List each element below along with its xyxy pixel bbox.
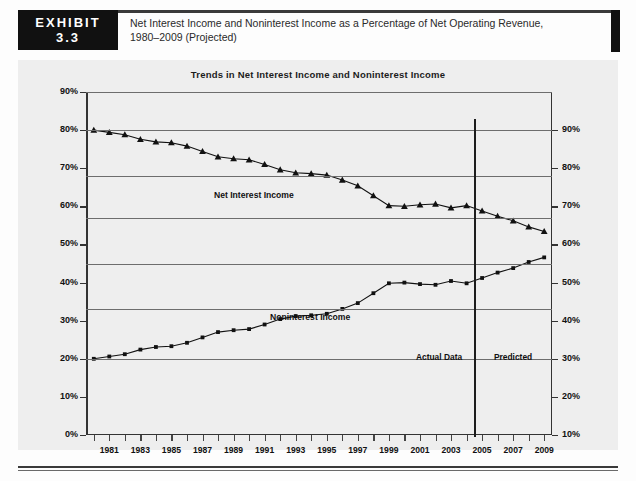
gridline: [86, 176, 552, 177]
x-tick: [482, 435, 483, 441]
x-tick: [94, 435, 95, 441]
y-axis-label-left: 90%: [38, 86, 78, 96]
x-tick: [280, 435, 281, 441]
data-point-marker: [387, 281, 391, 285]
y-axis-label-right: 60%: [562, 238, 602, 248]
y-tick-right: [552, 283, 558, 284]
y-axis-label-left: 0%: [38, 429, 78, 439]
footer-rule-thin: [18, 470, 618, 471]
data-point-marker: [123, 352, 127, 356]
y-tick-left: [80, 435, 86, 436]
data-point-marker: [201, 336, 205, 340]
data-point-marker: [139, 348, 143, 352]
x-tick: [234, 435, 235, 441]
x-tick: [109, 435, 110, 441]
series-label-net-interest-income: Net Interest Income: [214, 190, 294, 200]
series-label-noninterest-income: Noninterest Income: [270, 312, 350, 322]
data-point-marker: [263, 323, 267, 327]
gridline: [86, 92, 552, 93]
series-line: [94, 130, 544, 231]
y-tick-left: [80, 244, 86, 245]
header-rule: [118, 10, 618, 13]
gridline: [86, 264, 552, 265]
x-tick: [156, 435, 157, 441]
data-point-marker: [216, 330, 220, 334]
x-tick: [342, 435, 343, 441]
x-tick: [218, 435, 219, 441]
data-point-marker: [154, 345, 158, 349]
y-axis-label-left: 30%: [38, 315, 78, 325]
exhibit-badge: EXHIBIT 3.3: [18, 10, 118, 50]
series-line: [94, 257, 544, 358]
gridline: [86, 309, 552, 310]
x-tick: [358, 435, 359, 441]
x-tick: [140, 435, 141, 441]
header-right-accent: [611, 10, 620, 52]
x-tick: [451, 435, 452, 441]
data-point-marker: [542, 256, 546, 260]
label-predicted: Predicted: [494, 352, 532, 362]
x-tick: [498, 435, 499, 441]
x-tick: [529, 435, 530, 441]
x-tick: [404, 435, 405, 441]
y-tick-left: [80, 397, 86, 398]
x-tick: [125, 435, 126, 441]
y-axis-label-left: 70%: [38, 162, 78, 172]
y-tick-right: [552, 130, 558, 131]
data-point-marker: [372, 291, 376, 295]
x-tick: [311, 435, 312, 441]
data-point-marker: [370, 192, 377, 198]
y-tick-left: [80, 283, 86, 284]
x-tick: [296, 435, 297, 441]
exhibit-word: EXHIBIT: [35, 15, 100, 30]
x-tick: [203, 435, 204, 441]
y-axis-label-right: 20%: [562, 391, 602, 401]
x-tick: [249, 435, 250, 441]
y-tick-left: [80, 168, 86, 169]
data-point-marker: [465, 281, 469, 285]
caption-line-1: Net Interest Income and Noninterest Inco…: [130, 16, 610, 30]
x-tick: [327, 435, 328, 441]
y-axis-label-right: 10%: [562, 429, 602, 439]
data-point-marker: [185, 341, 189, 345]
chart-container: Trends in Net Interest Income and Nonint…: [18, 60, 618, 450]
y-tick-left: [80, 130, 86, 131]
data-point-marker: [356, 301, 360, 305]
x-tick: [171, 435, 172, 441]
y-tick-right: [552, 206, 558, 207]
caption-line-2: 1980–2009 (Projected): [130, 30, 610, 44]
y-axis-label-left: 80%: [38, 124, 78, 134]
y-axis-label-right: 50%: [562, 277, 602, 287]
y-axis-label-left: 10%: [38, 391, 78, 401]
exhibit-caption: Net Interest Income and Noninterest Inco…: [130, 16, 610, 44]
y-axis-label-right: 70%: [562, 200, 602, 210]
y-axis-label-left: 60%: [38, 200, 78, 210]
data-point-marker: [247, 327, 251, 331]
x-tick: [420, 435, 421, 441]
exhibit-page: EXHIBIT 3.3 Net Interest Income and Noni…: [0, 0, 636, 481]
y-tick-right: [552, 321, 558, 322]
data-point-marker: [496, 271, 500, 275]
y-axis-label-left: 40%: [38, 277, 78, 287]
y-tick-right: [552, 397, 558, 398]
y-tick-right: [552, 359, 558, 360]
y-tick-left: [80, 321, 86, 322]
y-axis-label-right: 30%: [562, 353, 602, 363]
x-tick: [187, 435, 188, 441]
x-tick: [467, 435, 468, 441]
y-tick-left: [80, 92, 86, 93]
x-tick: [513, 435, 514, 441]
label-actual-data: Actual Data: [416, 352, 462, 362]
y-axis-label-right: 80%: [562, 162, 602, 172]
y-tick-right: [552, 168, 558, 169]
data-point-marker: [449, 279, 453, 283]
gridline: [86, 130, 552, 131]
data-point-marker: [170, 344, 174, 348]
x-tick: [436, 435, 437, 441]
y-tick-right: [552, 435, 558, 436]
gridline: [86, 359, 552, 360]
exhibit-number: 3.3: [56, 30, 80, 45]
x-tick: [373, 435, 374, 441]
y-tick-right: [552, 244, 558, 245]
gridline: [86, 218, 552, 219]
